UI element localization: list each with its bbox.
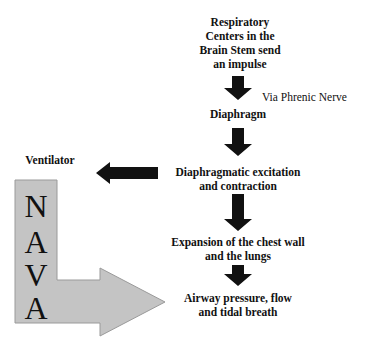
node-line: and tidal breath [170,305,306,319]
nava-letter-a2: A [16,292,56,324]
down-arrow-icon [224,128,252,156]
node-line: and contraction [163,179,313,193]
ventilator-label: Ventilator [10,153,90,167]
down-arrow-icon [224,265,252,286]
node-diaphragm: Diaphragm [188,107,288,121]
node-line: Diaphragmatic excitation [163,165,313,179]
nava-letter-n: N [16,190,56,222]
nava-letter-a: A [16,226,56,258]
node-line: Expansion of the chest wall [163,235,313,249]
node-respiratory-centers: Respiratory Centers in the Brain Stem se… [180,15,300,71]
down-arrow-icon [224,76,252,100]
node-line: Centers in the [180,29,300,43]
nava-letter-v: V [16,259,56,291]
node-line: Respiratory [180,15,300,29]
node-expansion: Expansion of the chest wall and the lung… [163,235,313,263]
node-line: and the lungs [163,249,313,263]
edge-label-phrenic: Via Phrenic Nerve [262,90,347,104]
down-arrow-icon [224,194,252,231]
node-line: Airway pressure, flow [170,291,306,305]
node-line: Brain Stem send [180,43,300,57]
node-excitation: Diaphragmatic excitation and contraction [163,165,313,193]
node-line: an impulse [180,57,300,71]
node-line: Diaphragm [188,107,288,121]
node-airway: Airway pressure, flow and tidal breath [170,291,306,319]
left-arrow-icon [96,162,158,184]
